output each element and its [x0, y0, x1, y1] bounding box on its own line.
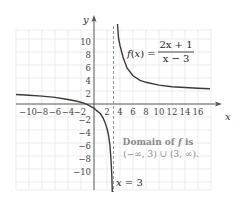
domain-line-2: (−∞, 3) ∪ (3, ∞).: [123, 149, 199, 159]
x-tick: −8: [36, 107, 49, 117]
y-tick: −8: [78, 154, 91, 164]
y-tick: 10: [80, 37, 91, 47]
domain-line-1: Domain of f is: [123, 137, 194, 147]
function-label: f(x) = 2x + 1 x − 3: [126, 39, 194, 64]
y-tick: 2: [86, 89, 91, 99]
x-axis-label: x: [225, 111, 231, 122]
y-tick: −4: [78, 128, 91, 138]
y-tick: 8: [86, 50, 91, 60]
asymptote-label: x = 3: [116, 177, 143, 188]
y-axis-label: y: [82, 14, 89, 25]
x-tick: −6: [49, 107, 62, 117]
function-denominator: x − 3: [163, 53, 190, 64]
y-tick: −10: [73, 167, 91, 177]
function-name: f(x) =: [126, 48, 156, 59]
x-tick: 2: [104, 107, 109, 117]
y-tick: 4: [86, 76, 91, 86]
x-tick: 16: [193, 107, 204, 117]
chart-canvas: x y −10 −8 −6 −4 −2 2 4 6 8 10 12 14 16 …: [0, 0, 234, 200]
function-numerator: 2x + 1: [159, 39, 192, 50]
y-tick: −6: [78, 141, 91, 151]
x-tick: 10: [154, 107, 165, 117]
x-tick: −10: [19, 107, 37, 117]
x-tick: 6: [130, 107, 135, 117]
x-tick: 4: [117, 107, 122, 117]
x-tick: −4: [62, 107, 75, 117]
domain-annotation: Domain of f is (−∞, 3) ∪ (3, ∞).: [123, 137, 199, 159]
x-tick: 14: [180, 107, 191, 117]
y-tick: 6: [86, 63, 91, 73]
y-tick: −2: [78, 115, 91, 125]
x-tick: 8: [143, 107, 148, 117]
x-tick: 12: [167, 107, 178, 117]
x-tick-labels: −10 −8 −6 −4 −2 2 4 6 8 10 12 14 16: [19, 107, 203, 117]
